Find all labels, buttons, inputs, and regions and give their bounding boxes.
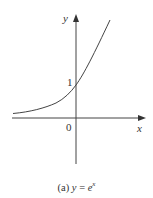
chart-caption: (a) y = ex (0, 180, 153, 193)
y-axis-label: y (62, 12, 68, 24)
x-axis-arrow-icon (138, 115, 146, 121)
exp-curve (13, 20, 110, 114)
x-axis-label: x (136, 122, 142, 134)
y-intercept-label: 1 (67, 76, 73, 88)
origin-label: 0 (66, 121, 72, 133)
y-axis-arrow-icon (73, 14, 79, 22)
exp-graph: y x 0 1 (0, 0, 153, 198)
